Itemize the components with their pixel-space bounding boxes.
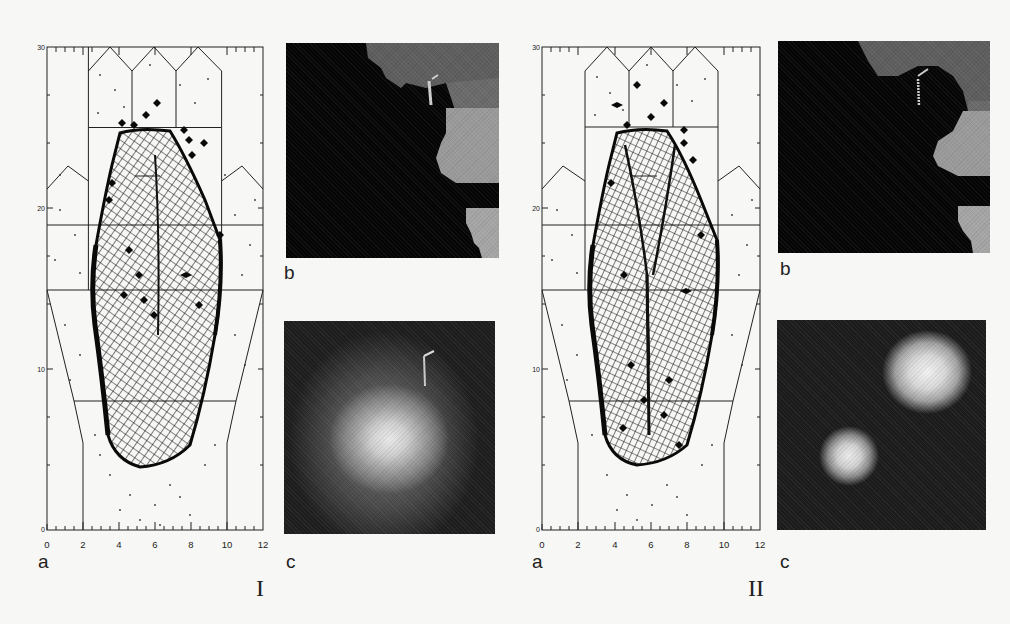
- panel-II-label-b: b: [780, 258, 791, 280]
- segmentation-map-II: [778, 41, 990, 253]
- y-tick-10: 10: [37, 366, 45, 373]
- mesh-plot-I: 0 2 4 6 8 10 12 0 10 20 30: [20, 35, 275, 560]
- mesh-plot-II: 0 2 4 6 8 10 12 0 10 20 30: [515, 35, 770, 560]
- x-tick-0: 0: [539, 539, 544, 550]
- panel-I-label-b: b: [284, 262, 295, 284]
- x-ticks-top: [56, 47, 254, 55]
- y-tick-20: 20: [532, 205, 540, 212]
- panel-II-plot-a: 0 2 4 6 8 10 12 0 10 20 30: [515, 35, 770, 560]
- x-tick-2: 2: [80, 539, 85, 550]
- x-tick-0: 0: [44, 539, 49, 550]
- panel-I-plot-a: 0 2 4 6 8 10 12 0 10 20 30: [20, 35, 275, 560]
- y-tick-30: 30: [532, 44, 540, 51]
- panel-I-roman-label: I: [256, 575, 264, 602]
- y-tick-0: 0: [536, 526, 540, 533]
- panel-II-label-a: a: [532, 551, 543, 573]
- panel-I-label-c: c: [286, 551, 296, 573]
- x-tick-4: 4: [116, 539, 121, 550]
- panel-II-label-c: c: [780, 551, 790, 573]
- x-tick-6: 6: [152, 539, 157, 550]
- probe-marker-icon: [284, 321, 495, 534]
- x-tick-8: 8: [684, 539, 689, 550]
- panel-II-intensity-image-c: [777, 320, 986, 530]
- x-tick-12: 12: [258, 539, 269, 550]
- x-tick-8: 8: [188, 539, 193, 550]
- x-tick-10: 10: [719, 539, 730, 550]
- panel-I-segmentation-image-b: [286, 43, 499, 258]
- x-tick-2: 2: [575, 539, 580, 550]
- x-tick-6: 6: [648, 539, 653, 550]
- x-tick-4: 4: [612, 539, 617, 550]
- segmentation-map-I: [286, 43, 499, 258]
- x-tick-10: 10: [222, 539, 233, 550]
- y-tick-10: 10: [532, 366, 540, 373]
- x-tick-12: 12: [755, 539, 766, 550]
- panel-II-roman-label: II: [748, 575, 764, 602]
- x-ticks-bottom: [47, 522, 254, 530]
- panel-I-label-a: a: [38, 551, 49, 573]
- mesh-surface: [590, 129, 718, 465]
- y-tick-30: 30: [37, 44, 45, 51]
- y-tick-20: 20: [37, 205, 45, 212]
- panel-I-intensity-image-c: [284, 321, 495, 534]
- y-tick-0: 0: [41, 526, 45, 533]
- panel-II-segmentation-image-b: [778, 41, 990, 253]
